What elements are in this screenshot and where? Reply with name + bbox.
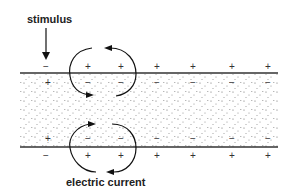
charge-sign: + — [83, 151, 93, 161]
charge-sign: + — [83, 62, 93, 72]
charge-sign: + — [116, 151, 126, 161]
charge-sign: + — [188, 151, 198, 161]
bottom-loop-arrowhead-bottom — [106, 169, 114, 175]
charge-sign: + — [152, 151, 162, 161]
charge-sign: + — [227, 62, 237, 72]
electric-current-label: electric current — [66, 176, 145, 188]
charge-sign: − — [188, 78, 198, 88]
charge-sign: − — [188, 134, 198, 144]
charge-sign: − — [41, 62, 51, 72]
charge-sign: − — [83, 134, 93, 144]
charge-sign: − — [116, 78, 126, 88]
charge-sign: + — [116, 62, 126, 72]
charge-sign: − — [116, 134, 126, 144]
charge-sign: − — [41, 151, 51, 161]
charge-sign: − — [83, 78, 93, 88]
charge-sign: − — [227, 134, 237, 144]
nerve-impulse-diagram: stimulus electric current − + + + + + + … — [0, 0, 298, 190]
charge-sign: − — [263, 134, 273, 144]
axoplasm — [20, 74, 278, 147]
axon-illustration — [0, 0, 298, 190]
charge-sign: − — [263, 78, 273, 88]
charge-sign: + — [43, 78, 53, 88]
charge-sign: + — [263, 151, 273, 161]
charge-sign: + — [188, 62, 198, 72]
charge-sign: + — [227, 151, 237, 161]
charge-sign: − — [227, 78, 237, 88]
stimulus-label: stimulus — [27, 13, 72, 25]
top-loop-arrowhead-left — [104, 45, 112, 51]
charge-sign: − — [152, 134, 162, 144]
charge-sign: + — [43, 134, 53, 144]
charge-sign: + — [263, 62, 273, 72]
stimulus-arrow-icon — [42, 28, 50, 60]
charge-sign: + — [152, 62, 162, 72]
charge-sign: − — [152, 78, 162, 88]
